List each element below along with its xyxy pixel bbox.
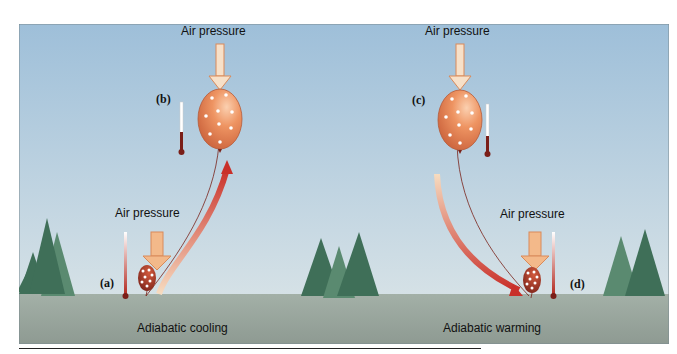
caption-divider xyxy=(19,348,481,349)
air-pressure-label-c: Air pressure xyxy=(425,24,490,38)
sky xyxy=(19,24,669,294)
label-b: (b) xyxy=(156,92,171,107)
label-d: (d) xyxy=(570,277,585,292)
air-pressure-label-a: Air pressure xyxy=(115,206,180,220)
ground xyxy=(19,294,669,344)
diagram-canvas xyxy=(19,24,669,344)
label-c: (c) xyxy=(412,93,425,108)
adiabatic-warming-label: Adiabatic warming xyxy=(443,321,541,335)
air-pressure-label-d: Air pressure xyxy=(500,207,565,221)
adiabatic-diagram: Air pressure Air pressure Air pressure A… xyxy=(19,24,669,354)
label-a: (a) xyxy=(100,276,114,291)
air-pressure-label-b: Air pressure xyxy=(181,24,246,38)
adiabatic-cooling-label: Adiabatic cooling xyxy=(137,321,228,335)
